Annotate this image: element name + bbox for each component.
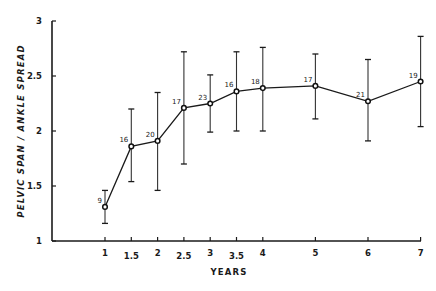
line-chart: 11.522.53 11.522.533.54567 PELVIC SPAN /…	[0, 0, 436, 291]
data-point-marker	[208, 101, 213, 106]
x-tick-label: 3	[207, 248, 213, 258]
x-tick-label: 4	[260, 248, 266, 258]
sample-size-label: 16	[119, 136, 128, 144]
y-axis: 11.522.53	[27, 16, 56, 246]
sample-size-label: 17	[303, 76, 312, 84]
x-tick-label: 1	[102, 248, 108, 258]
x-tick-label: 7	[418, 248, 424, 258]
sample-size-label: 21	[356, 91, 365, 99]
data-point-marker	[234, 89, 239, 94]
data-point-marker	[366, 99, 371, 104]
data-point-marker	[418, 79, 423, 84]
sample-size-label: 16	[225, 81, 234, 89]
sample-size-label: 9	[98, 197, 102, 205]
sample-size-label: 17	[172, 98, 181, 106]
y-tick-label: 1	[36, 236, 42, 246]
data-point-marker	[182, 106, 187, 111]
data-point-marker	[261, 86, 266, 91]
y-axis-title: PELVIC SPAN / ANKLE SPREAD	[16, 44, 26, 218]
sample-size-label: 19	[409, 72, 418, 80]
data-point-marker	[155, 139, 160, 144]
data-point-marker	[313, 84, 318, 89]
y-tick-label: 3	[36, 16, 42, 26]
x-tick-label: 2	[155, 248, 161, 258]
data-point-marker	[129, 144, 134, 149]
sample-size-label: 23	[198, 94, 207, 102]
x-axis-title: YEARS	[209, 267, 247, 277]
data-point-marker	[103, 205, 108, 210]
sample-size-label: 18	[251, 78, 260, 86]
x-tick-label: 3.5	[229, 251, 244, 261]
y-tick-label: 2	[36, 126, 42, 136]
sample-size-label: 20	[146, 131, 155, 139]
y-tick-label: 1.5	[27, 181, 42, 191]
x-tick-label: 6	[365, 248, 371, 258]
y-tick-label: 2.5	[27, 71, 42, 81]
x-tick-label: 2.5	[176, 251, 191, 261]
x-tick-label: 5	[312, 248, 318, 258]
x-tick-label: 1.5	[124, 251, 139, 261]
x-axis: 11.522.533.54567	[52, 237, 424, 261]
plot-area: 9162017231618172119	[98, 36, 424, 223]
